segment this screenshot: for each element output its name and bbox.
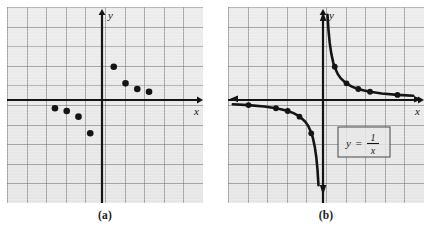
data-point bbox=[63, 108, 70, 115]
curve-arrow-left-b bbox=[230, 95, 238, 102]
marked-point bbox=[332, 64, 338, 70]
curve-right-branch-b bbox=[328, 15, 414, 96]
curve-left-branch-b bbox=[233, 104, 319, 185]
panel-a-caption: (a) bbox=[7, 209, 203, 221]
marked-point bbox=[308, 130, 314, 136]
plot-area-a: y x bbox=[7, 7, 203, 203]
equation-equals-b: = bbox=[355, 137, 362, 149]
panel-a-scatter: y x bbox=[7, 7, 203, 203]
axes-a bbox=[7, 9, 203, 203]
figure-root: y x (a) bbox=[0, 0, 425, 237]
marked-point bbox=[285, 108, 291, 114]
y-axis-label-b: y bbox=[328, 9, 334, 21]
y-axis-label-a: y bbox=[107, 9, 113, 21]
marked-point bbox=[246, 102, 252, 108]
curve-arrow-down-b bbox=[320, 185, 327, 195]
marked-point bbox=[344, 80, 350, 86]
data-point bbox=[134, 86, 141, 93]
marked-point bbox=[297, 114, 303, 120]
y-axis-arrow-a bbox=[99, 9, 106, 15]
equation-numerator-b: 1 bbox=[371, 132, 376, 143]
marked-point bbox=[355, 86, 361, 92]
data-point bbox=[122, 80, 129, 87]
x-axis-label-b: x bbox=[414, 105, 420, 117]
panel-b-curve: y x y = 1 x bbox=[228, 7, 424, 203]
equation-label-b: y = 1 x bbox=[338, 127, 390, 157]
equation-denominator-b: x bbox=[370, 145, 376, 156]
data-point bbox=[87, 130, 94, 137]
x-axis-label-a: x bbox=[193, 105, 199, 117]
marked-point bbox=[395, 92, 401, 98]
curve-plot-b: y x y = 1 x bbox=[228, 7, 424, 203]
marked-point bbox=[367, 89, 373, 95]
equation-lhs-b: y bbox=[345, 137, 351, 149]
marked-point bbox=[273, 105, 279, 111]
data-point bbox=[110, 63, 117, 70]
data-point bbox=[52, 105, 59, 112]
data-point bbox=[146, 88, 153, 95]
plot-area-b: y x y = 1 x bbox=[228, 7, 424, 203]
scatter-plot-a: y x bbox=[7, 7, 203, 203]
panel-b-caption: (b) bbox=[228, 209, 424, 221]
x-axis-arrow-a bbox=[197, 97, 203, 104]
data-point bbox=[75, 113, 82, 120]
